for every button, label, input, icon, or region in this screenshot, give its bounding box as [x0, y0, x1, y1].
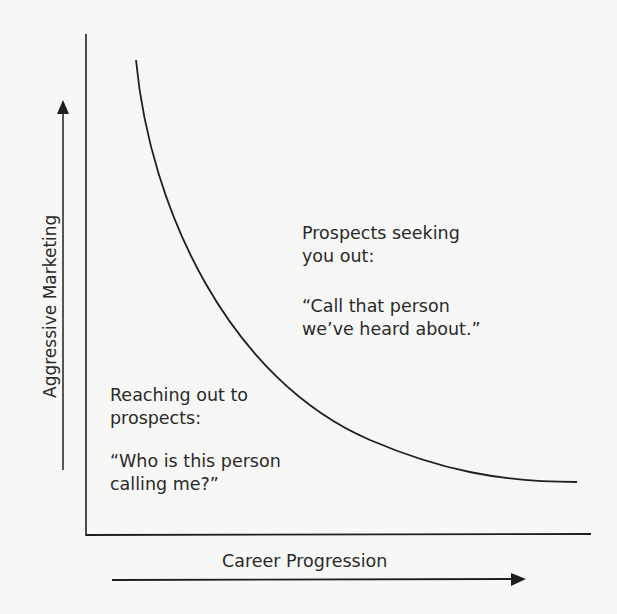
lower-heading-line1: Reaching out to — [110, 384, 248, 407]
lower-heading-line2: prospects: — [110, 407, 248, 430]
x-axis-label: Career Progression — [222, 550, 387, 573]
x-direction-arrow — [112, 573, 526, 586]
lower-annotation-heading: Reaching out to prospects: — [110, 384, 248, 430]
upper-heading-line1: Prospects seeking — [302, 222, 460, 245]
upper-quote-line2: we’ve heard about.” — [302, 318, 481, 341]
lower-annotation-quote: “Who is this person calling me?” — [110, 450, 281, 496]
lower-quote-line2: calling me?” — [110, 473, 281, 496]
upper-quote-line1: “Call that person — [302, 295, 481, 318]
upper-annotation-quote: “Call that person we’ve heard about.” — [302, 295, 481, 341]
y-axis-label: Aggressive Marketing — [40, 215, 60, 398]
upper-heading-line2: you out: — [302, 245, 460, 268]
lower-quote-line1: “Who is this person — [110, 450, 281, 473]
upper-annotation-heading: Prospects seeking you out: — [302, 222, 460, 268]
x-axis-line — [86, 534, 591, 535]
